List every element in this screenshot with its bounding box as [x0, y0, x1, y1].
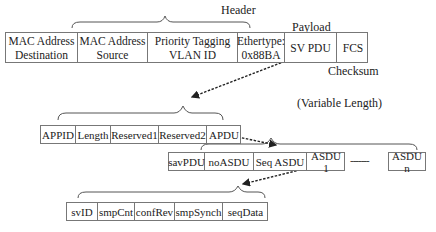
- field-length: Length: [76, 126, 111, 143]
- asdu-structure: svID smpCnt confRev smpSynch seqData: [66, 202, 268, 221]
- field-mac-source: MAC Address Source: [78, 33, 148, 62]
- asdu-brace: [78, 186, 265, 198]
- field-sv-pdu: SV PDU: [285, 33, 337, 62]
- field-ethertype: Ethertype: 0x88BA: [238, 33, 285, 62]
- field-seq-asdu: Seq ASDU: [254, 153, 307, 170]
- field-savpdu: savPDU: [169, 153, 205, 170]
- field-confrev: confRev: [135, 203, 175, 220]
- field-priority-vlan: Priority Tagging VLAN ID: [148, 33, 238, 62]
- field-smpsynch: smpSynch: [175, 203, 223, 220]
- field-appid: APPID: [41, 126, 76, 143]
- sv-pdu-structure: APPID Length Reserved1 Reserved2 APDU: [40, 125, 241, 144]
- field-asdu-1: ASDU 1: [307, 153, 345, 170]
- apdu-structure: savPDU noASDU Seq ASDU ASDU 1: [168, 152, 345, 171]
- sv-pdu-brace: [58, 106, 223, 120]
- field-reserved2: Reserved2: [159, 126, 207, 143]
- field-noasdu: noASDU: [205, 153, 254, 170]
- checksum-label: Checksum: [328, 64, 379, 79]
- header-label: Header: [221, 3, 256, 18]
- ethernet-frame: MAC Address Destination MAC Address Sour…: [5, 32, 368, 63]
- field-reserved1: Reserved1: [111, 126, 159, 143]
- field-asdu-n: ASDU n: [388, 152, 426, 171]
- field-apdu: APDU: [207, 126, 241, 143]
- field-fcs: FCS: [337, 33, 369, 62]
- arrow-svpdu-to-fields: [192, 57, 296, 97]
- field-seqdata: seqData: [223, 203, 268, 220]
- field-smpcnt: smpCnt: [98, 203, 135, 220]
- ellipsis-dashes: -------: [350, 154, 369, 166]
- variable-length-label: (Variable Length): [297, 96, 382, 111]
- field-mac-destination: MAC Address Destination: [6, 33, 78, 62]
- field-svid: svID: [67, 203, 98, 220]
